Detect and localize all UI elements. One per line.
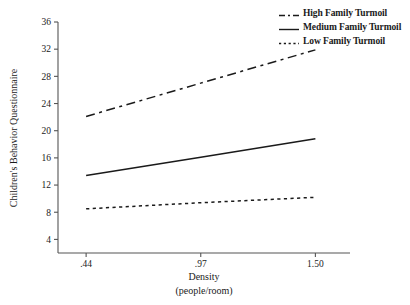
- x-tick-label: 1.50: [307, 259, 324, 269]
- y-tick-label: 36: [42, 17, 52, 27]
- series-line-dotted: [86, 197, 315, 209]
- y-axis-ticks: 4812162024283236: [42, 17, 59, 244]
- legend-item-low: Low Family Turmoil: [278, 34, 408, 47]
- chart-figure: 4812162024283236 .44.971.50 Children's B…: [0, 0, 410, 305]
- y-axis-title: Children's Behavior Questionnaire: [8, 68, 19, 207]
- x-axis-title: Density: [188, 271, 219, 282]
- legend-label-medium: Medium Family Turmoil: [303, 22, 401, 32]
- x-tick-label: .97: [195, 259, 207, 269]
- legend-label-low: Low Family Turmoil: [303, 36, 385, 46]
- legend-swatch-dashed-icon: [278, 7, 300, 18]
- axis-lines: [58, 22, 350, 253]
- x-axis-subtitle: (people/room): [175, 285, 232, 297]
- legend-label-high: High Family Turmoil: [303, 8, 387, 18]
- y-tick-label: 32: [42, 44, 52, 54]
- y-tick-label: 4: [46, 235, 51, 245]
- legend-item-high: High Family Turmoil: [278, 6, 408, 19]
- legend-swatch-solid-icon: [278, 21, 300, 32]
- x-axis-ticks: .44.971.50: [80, 253, 324, 269]
- x-tick-label: .44: [80, 259, 92, 269]
- legend-swatch-dotted-icon: [278, 35, 300, 46]
- y-tick-label: 28: [42, 72, 52, 82]
- y-tick-label: 16: [42, 153, 52, 163]
- y-tick-label: 20: [42, 126, 52, 136]
- y-tick-label: 8: [46, 208, 51, 218]
- chart-legend: High Family Turmoil Medium Family Turmoi…: [278, 6, 408, 48]
- y-tick-label: 24: [42, 99, 52, 109]
- series-line-solid: [86, 139, 315, 176]
- legend-item-medium: Medium Family Turmoil: [278, 20, 408, 33]
- y-tick-label: 12: [42, 180, 52, 190]
- data-series-layer: [86, 50, 315, 209]
- series-line-dashed: [86, 50, 315, 117]
